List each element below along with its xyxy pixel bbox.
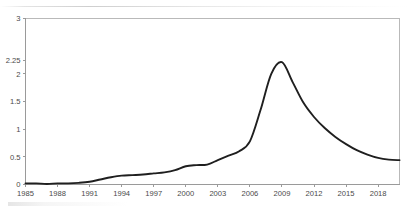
data-series-group (26, 62, 400, 184)
x-tick-label: 1994 (113, 189, 130, 198)
y-tick-label: 0.5 (10, 153, 21, 162)
x-tick-label: 1997 (145, 189, 162, 198)
x-tick-label: 1991 (81, 189, 98, 198)
x-tick-label: 2006 (241, 189, 258, 198)
x-tick-label: 2009 (274, 189, 291, 198)
plot-frame (26, 19, 400, 185)
line-chart: 00.511.522.253 1985198819911994199720002… (0, 0, 408, 208)
y-tick-label: 2 (16, 70, 20, 79)
x-axis-tick-labels: 1985198819911994199720002003200620092012… (17, 189, 387, 198)
y-tick-label: 1 (16, 125, 20, 134)
x-tick-label: 2003 (209, 189, 226, 198)
y-tick-label: 1.5 (10, 97, 21, 106)
bottom-artifact (8, 202, 128, 206)
y-tick-label: 0 (16, 180, 20, 189)
y-axis-tick-labels: 00.511.522.253 (6, 14, 21, 189)
y-tick-label: 3 (16, 14, 20, 23)
x-tick-label: 2012 (306, 189, 323, 198)
y-tick-label: 2.25 (6, 56, 21, 65)
x-tick-label: 2015 (338, 189, 355, 198)
x-tick-label: 1988 (49, 189, 66, 198)
x-tick-label: 2018 (370, 189, 387, 198)
x-tick-label: 2000 (177, 189, 194, 198)
x-tick-label: 1985 (17, 189, 34, 198)
chart-plot-svg: 00.511.522.253 1985198819911994199720002… (0, 0, 408, 208)
series-line-1 (26, 62, 400, 184)
